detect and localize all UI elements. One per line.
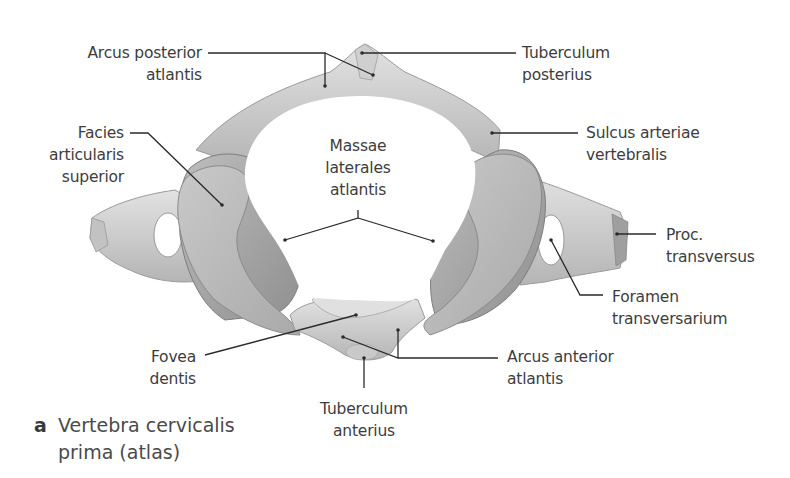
label-sulcus-arteriae-vertebralis: Sulcus arteriae vertebralis <box>586 122 700 166</box>
anatomy-figure: Arcus posterior atlantis Tuberculum post… <box>0 0 790 478</box>
label-line: Arcus anterior <box>507 346 614 368</box>
label-line: transversarium <box>612 308 727 330</box>
label-arcus-anterior: Arcus anterior atlantis <box>507 346 614 390</box>
label-line: Arcus posterior <box>60 42 202 64</box>
label-line: superior <box>20 166 124 188</box>
label-proc-transversus: Proc. transversus <box>666 224 755 268</box>
label-line: Foramen <box>612 286 727 308</box>
anterior-arch <box>290 292 425 360</box>
label-line: articularis <box>20 144 124 166</box>
label-line: Massae <box>300 135 416 157</box>
label-line: Facies <box>20 122 124 144</box>
label-line: dentis <box>120 368 196 390</box>
label-massae-laterales: Massae laterales atlantis <box>300 135 416 201</box>
caption-letter: a <box>34 412 47 439</box>
label-facies-articularis-superior: Facies articularis superior <box>20 122 124 188</box>
label-line: Tuberculum <box>300 398 428 420</box>
label-fovea-dentis: Fovea dentis <box>120 346 196 390</box>
label-line: anterius <box>300 420 428 442</box>
label-line: Proc. <box>666 224 755 246</box>
label-arcus-posterior: Arcus posterior atlantis <box>60 42 202 86</box>
label-line: Fovea <box>120 346 196 368</box>
label-line: vertebralis <box>586 144 700 166</box>
caption-line: prima (atlas) <box>58 439 235 466</box>
label-line: Sulcus arteriae <box>586 122 700 144</box>
label-line: atlantis <box>60 64 202 86</box>
label-foramen-transversarium: Foramen transversarium <box>612 286 727 330</box>
caption-line: Vertebra cervicalis <box>58 412 235 439</box>
caption-text: Vertebra cervicalis prima (atlas) <box>58 412 235 466</box>
label-line: Tuberculum <box>522 42 610 64</box>
label-tuberculum-posterius: Tuberculum posterius <box>522 42 610 86</box>
label-tuberculum-anterius: Tuberculum anterius <box>300 398 428 442</box>
label-line: transversus <box>666 246 755 268</box>
label-line: atlantis <box>300 179 416 201</box>
label-line: laterales <box>300 157 416 179</box>
label-line: atlantis <box>507 368 614 390</box>
label-line: posterius <box>522 64 610 86</box>
